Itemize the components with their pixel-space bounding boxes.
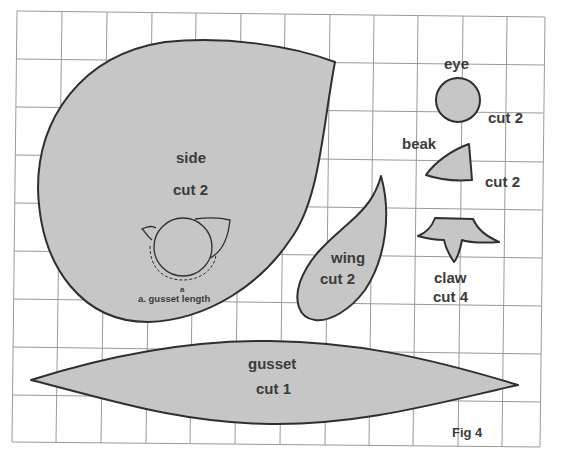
- side-piece: a a. gusset length side cut 2: [38, 40, 335, 322]
- gusset-label: gusset: [248, 355, 296, 372]
- figure-caption: Fig 4: [452, 425, 483, 440]
- gusset-instruction: cut 1: [256, 380, 291, 397]
- gusset-piece: gusset cut 1: [31, 341, 518, 424]
- beak-instruction: cut 2: [485, 173, 520, 190]
- claw-label: claw: [434, 269, 467, 286]
- side-instruction: cut 2: [173, 181, 208, 198]
- claw-piece: claw cut 4: [418, 218, 499, 305]
- side-label: side: [176, 149, 206, 166]
- eye-label: eye: [444, 55, 469, 72]
- beak-label: beak: [402, 135, 437, 152]
- eye-instruction: cut 2: [488, 109, 523, 126]
- wing-label: wing: [330, 249, 365, 266]
- claw-instruction: cut 4: [433, 288, 469, 305]
- gusset-legend: a. gusset length: [138, 293, 211, 304]
- wing-instruction: cut 2: [320, 270, 355, 287]
- sewing-pattern-figure: a a. gusset length side cut 2 eye cut 2 …: [0, 0, 562, 461]
- eye-piece: eye cut 2: [436, 55, 523, 126]
